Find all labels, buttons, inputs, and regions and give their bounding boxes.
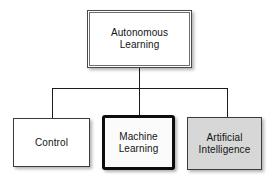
connector-drop-artificial-intelligence xyxy=(227,88,228,117)
connector-drop-control xyxy=(52,88,53,118)
connector-trunk xyxy=(139,68,140,88)
node-label-machine-learning: Machine Learning xyxy=(119,131,159,155)
node-label-autonomous-learning: Autonomous Learning xyxy=(111,27,168,51)
node-machine-learning: Machine Learning xyxy=(102,115,175,170)
node-autonomous-learning: Autonomous Learning xyxy=(87,10,192,68)
node-label-artificial-intelligence: Artificial Intelligence xyxy=(199,132,251,156)
node-control: Control xyxy=(13,118,90,167)
diagram-canvas: Autonomous Learning Control Machine Lear… xyxy=(0,0,272,185)
connector-horizontal xyxy=(52,88,228,89)
node-artificial-intelligence: Artificial Intelligence xyxy=(187,117,262,170)
node-label-control: Control xyxy=(35,137,68,149)
connector-drop-machine-learning xyxy=(139,88,140,115)
